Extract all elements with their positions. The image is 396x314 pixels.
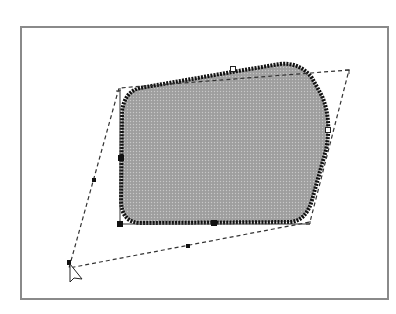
handle-skew-left[interactable] <box>92 178 96 182</box>
handle-bottom-mid[interactable] <box>211 220 217 226</box>
handle-top-mid[interactable] <box>231 67 236 72</box>
handle-left-mid[interactable] <box>118 155 124 161</box>
arrow-cursor-icon <box>70 264 82 282</box>
handle-skew-bottom[interactable] <box>186 244 190 248</box>
handle-bottom-left[interactable] <box>117 221 123 227</box>
drawing-canvas[interactable] <box>0 0 396 314</box>
handle-right-mid[interactable] <box>326 128 331 133</box>
selected-shape[interactable] <box>121 64 328 223</box>
